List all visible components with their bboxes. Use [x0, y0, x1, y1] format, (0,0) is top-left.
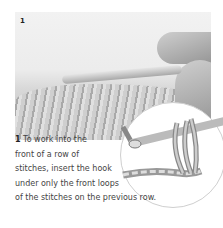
caption-line: under only the front loops [15, 177, 156, 192]
caption: 1 To work into the front of a row of sti… [15, 133, 156, 206]
caption-line: of the stitches on the previous row. [15, 191, 156, 206]
caption-line: front of a row of [15, 148, 156, 163]
caption-line: stitches, insert the hook [15, 162, 156, 177]
crochet-hook [62, 65, 182, 84]
step-number: 1 [20, 17, 25, 25]
caption-line: To work into the [21, 135, 87, 144]
